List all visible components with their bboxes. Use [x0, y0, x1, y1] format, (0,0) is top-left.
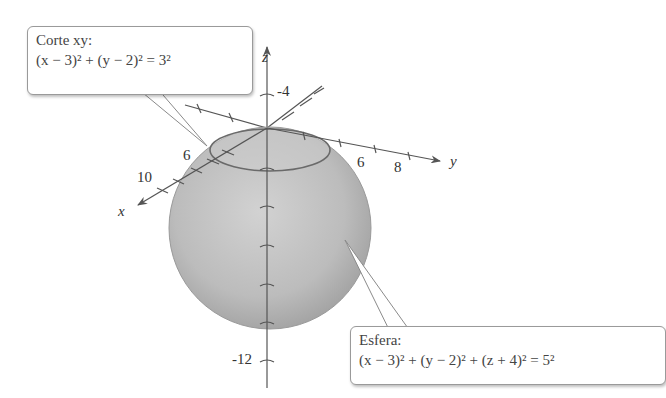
xy-trace-equation: (x − 3)² + (y − 2)² = 3² — [36, 50, 244, 70]
sphere-equation: (x − 3)² + (y − 2)² + (z + 4)² = 5² — [359, 350, 657, 370]
z-tick-label-neg12: -12 — [232, 352, 252, 367]
z-tick-label-neg4: -4 — [277, 84, 290, 99]
xy-trace-ellipse — [210, 129, 330, 171]
sphere-title: Esfera: — [359, 330, 657, 350]
sphere-callout: Esfera: (x − 3)² + (y − 2)² + (z + 4)² =… — [350, 326, 666, 385]
y-tick-label-6: 6 — [357, 155, 365, 170]
z-axis-label: z — [262, 50, 268, 65]
x-axis-label: x — [118, 204, 125, 219]
xy-trace-callout: Corte xy: (x − 3)² + (y − 2)² = 3² — [27, 26, 253, 95]
y-tick-label-8: 8 — [394, 160, 402, 175]
x-tick-label-6: 6 — [183, 148, 191, 163]
xy-trace-title: Corte xy: — [36, 30, 244, 50]
x-tick-label-10: 10 — [137, 170, 152, 185]
y-axis-label: y — [450, 154, 457, 169]
